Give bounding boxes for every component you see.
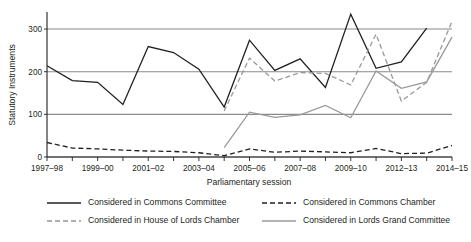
y-axis-title: Statutory Instruments: [7, 44, 17, 126]
y-tick-label: 100: [28, 110, 42, 119]
y-tick-label: 0: [37, 153, 42, 162]
y-tick-label: 300: [28, 25, 42, 34]
gridlines: [47, 29, 452, 157]
y-tick-label: 200: [28, 68, 42, 77]
legend-label-2[interactable]: Considered in House of Lords Chamber: [88, 215, 240, 225]
x-tick-label: 2009–10: [335, 164, 367, 173]
y-tick-labels: 0100200300: [28, 25, 47, 162]
chart-container: 0100200300 1997–981999–002001–022003–042…: [0, 0, 471, 242]
x-tick-label: 1999–00: [82, 164, 114, 173]
x-tick-label: 2007–08: [284, 164, 316, 173]
x-tick-labels: 1997–981999–002001–022003–042005–062007–…: [31, 164, 468, 173]
series-line-0: [47, 14, 427, 107]
x-tick-label: 2012–13: [385, 164, 417, 173]
x-tick-label: 2003–04: [183, 164, 215, 173]
series-line-3: [224, 37, 452, 147]
x-axis-title: Parliamentary session: [207, 177, 292, 187]
legend: Considered in Commons CommitteeConsidere…: [47, 197, 450, 225]
x-tick-label: 2001–02: [132, 164, 164, 173]
statutory-instruments-line-chart: 0100200300 1997–981999–002001–022003–042…: [0, 0, 471, 242]
x-tick-label: 1997–98: [31, 164, 63, 173]
series-lines: [47, 14, 452, 156]
series-line-1: [47, 143, 452, 156]
legend-label-1[interactable]: Considered in Commons Chamber: [303, 197, 435, 207]
series-line-2: [224, 21, 452, 111]
legend-label-0[interactable]: Considered in Commons Committee: [88, 197, 227, 207]
x-tick-marks: [47, 157, 452, 161]
x-tick-label: 2014–15: [436, 164, 468, 173]
x-tick-label: 2005–06: [234, 164, 266, 173]
legend-label-3[interactable]: Considered in Lords Grand Committee: [303, 215, 450, 225]
